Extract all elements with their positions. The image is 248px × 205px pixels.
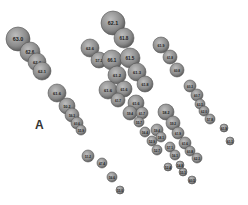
bubble: 61.8 [163,50,177,64]
bubble-label: 61.6 [133,102,140,106]
bubble-group: 63.062.662.262.161.650.256.360.655.951.2… [6,11,234,194]
bubble-label: 61.1 [227,140,233,144]
bubble-label: 61.8 [142,83,149,87]
bubble-label: 47.4 [99,162,105,166]
bubble-label: 61.9 [221,127,227,131]
bubble: 52.4 [164,163,172,171]
bubble: 56.6 [107,172,117,182]
bubble-label: 55.7 [136,121,142,125]
bubble-label: 63.5 [197,103,203,107]
bubble: 55.9 [76,125,86,135]
bubble-label: 62.6 [86,46,95,51]
bubble-label: 62.3 [194,157,200,161]
bubble-label: 52.9 [149,140,155,144]
bubble-label: 62.0 [201,110,207,114]
bubble-label: 58.2 [163,111,170,115]
bubble-label: 58.1 [158,136,164,140]
bubble-label: 61.6 [182,142,188,146]
bubble: 55.0 [116,186,124,194]
bubble-label: 55.1 [180,171,186,175]
bubble-label: 61.8 [120,36,129,41]
bubble-label: 61.8 [167,56,173,60]
bubble: 59.4 [123,106,137,120]
bubble-label: 57.1 [167,146,173,150]
bubble-label: 56.4 [142,131,148,135]
bubble: 56.4 [140,127,150,137]
bubble-label: 54.8 [177,164,183,168]
bubble-label: 57.2 [96,59,103,63]
bubble-label: 50.2 [64,105,71,109]
bubble-label: 55.9 [78,129,84,133]
bubble: 61.8 [137,76,153,92]
bubble-label: 61.6 [53,91,62,96]
bubble: 61.7 [111,93,125,107]
bubble: 62.3 [192,153,202,163]
bubble: 61.8 [114,28,134,48]
bubble-label: 56.3 [69,114,75,118]
bubble-label: 63.0 [13,36,24,42]
bubble-label: 52.7 [154,149,160,153]
bubble-figure: 63.062.662.262.161.650.256.360.655.951.2… [0,0,248,205]
bubble-label: 51.2 [85,155,91,159]
bubble-label: 56.1 [172,154,178,158]
bubble-label: 61.7 [115,99,121,103]
bubble-label: 62.1 [38,69,47,74]
bubble-label: 55.0 [117,189,123,193]
bubble-label: 60.3 [187,85,193,89]
bubble-label: 61.9 [158,44,165,48]
bubble: 58.1 [156,132,166,142]
bubble-label: 61.7 [139,112,145,116]
bubble: 47.4 [97,158,107,168]
panel-label: A [35,118,44,132]
bubble-label: 56.6 [109,176,115,180]
bubble-label: 61.6 [121,88,128,92]
bubble-label: 59.2 [170,122,176,126]
bubble-label: 62.1 [108,20,119,26]
bubble-label: 61.9 [175,132,181,136]
bubble-label: 60.8 [174,69,180,73]
bubble: 60.5 [188,176,196,184]
bubble-label: 57.8 [207,118,213,122]
bubble: 61.9 [220,124,228,132]
bubble-label: 61.5 [126,56,135,61]
bubble: 55.7 [134,117,144,127]
bubble: 52.9 [147,136,157,146]
bubble: 55.1 [179,168,187,176]
bubble: 57.8 [205,114,215,124]
bubble: 60.8 [170,63,184,77]
bubble-label: 61.2 [113,73,122,78]
bubble: 52.7 [152,145,162,155]
bubble-label: 60.6 [74,122,80,126]
bubble: 62.1 [33,62,51,80]
bubble-label: 66.1 [108,58,117,63]
bubble-label: 59.4 [154,129,160,133]
bubble-label: 60.5 [189,179,195,183]
bubble: 51.2 [82,150,94,162]
bubble-label: 60.7 [194,94,200,98]
bubble: 61.9 [172,127,184,139]
bubble-label: 52.4 [165,166,171,170]
bubble-label: 60.8 [187,150,193,154]
bubble-label: 59.4 [127,112,133,116]
bubble-label: 61.3 [133,70,142,75]
bubble: 61.1 [226,137,234,145]
bubble: 56.1 [170,150,180,160]
bubble-label: 61.6 [104,88,113,93]
